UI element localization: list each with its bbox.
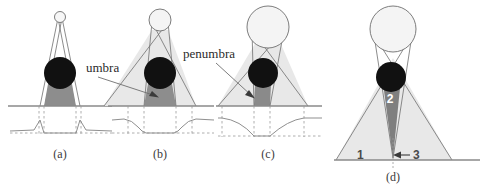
panel-a-caption: (a): [53, 147, 66, 161]
panel-a-occluder: [44, 57, 76, 89]
panel-b-occluder: [144, 57, 176, 89]
panel-a-dashed-guides: [39, 106, 81, 134]
panel-d-occluder: [376, 62, 406, 92]
figure-container: (a): [0, 0, 484, 193]
panel-a: (a): [8, 12, 112, 162]
panel-b-dashed-guides: [128, 106, 192, 134]
panel-b: umbra (b): [86, 9, 214, 161]
panel-b-caption: (b): [153, 147, 167, 161]
panel-a-light-source: [55, 12, 66, 23]
panel-d-caption: (d): [386, 170, 400, 184]
optics-diagram-svg: (a): [0, 0, 484, 193]
panel-c-light-source: [247, 6, 289, 48]
region-3-label: 3: [413, 148, 420, 162]
panel-a-intensity-curve: [10, 120, 112, 133]
panel-c: penumbra (c): [183, 6, 322, 161]
panel-d: 1 2 3 (d): [334, 6, 480, 184]
panel-c-caption: (c): [261, 147, 274, 161]
panel-b-light-source: [149, 9, 171, 31]
region-2-label: 2: [387, 92, 394, 106]
region-1-label: 1: [357, 148, 364, 162]
penumbra-label: penumbra: [183, 46, 235, 61]
panel-c-occluder: [248, 58, 278, 88]
panel-b-intensity-curve: [112, 119, 214, 133]
panel-d-light-source: [370, 6, 416, 52]
umbra-label: umbra: [86, 60, 119, 75]
